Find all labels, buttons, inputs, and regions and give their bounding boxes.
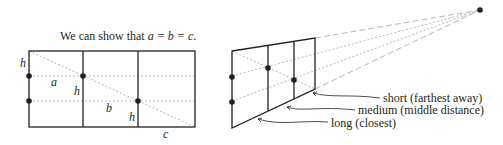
- diagram-canvas: We can show that a = b = c. h a h b h c: [0, 0, 503, 145]
- arrow-long: [258, 119, 328, 123]
- point: [291, 77, 297, 83]
- vanishing-point: [477, 7, 483, 13]
- label-h: h: [20, 56, 26, 70]
- point: [135, 98, 141, 104]
- left-title: We can show that a = b = c.: [60, 29, 196, 43]
- arrow-medium: [287, 107, 355, 110]
- label-h: h: [74, 84, 80, 98]
- vanishing-line-lower: [232, 10, 480, 101]
- label-h: h: [129, 110, 135, 124]
- point: [229, 99, 235, 105]
- right-figure: short (farthest away) medium (middle dis…: [229, 7, 484, 130]
- label-b: b: [106, 101, 112, 115]
- annotation-long: long (closest): [331, 116, 396, 130]
- point: [80, 73, 86, 79]
- diagonal-guide: [232, 51, 315, 89]
- arrow-short: [313, 93, 380, 98]
- annotation-medium: medium (middle distance): [358, 103, 484, 117]
- label-c: c: [163, 127, 169, 141]
- point: [26, 98, 32, 104]
- vanishing-line-top: [315, 10, 480, 38]
- outer-rectangle: [29, 51, 195, 127]
- vanishing-line-bottom: [315, 10, 480, 89]
- point: [26, 73, 32, 79]
- left-figure: We can show that a = b = c. h a h b h c: [20, 29, 196, 141]
- label-a: a: [51, 75, 57, 89]
- point: [265, 65, 271, 71]
- diagonal-guide: [29, 51, 195, 127]
- point: [229, 74, 235, 80]
